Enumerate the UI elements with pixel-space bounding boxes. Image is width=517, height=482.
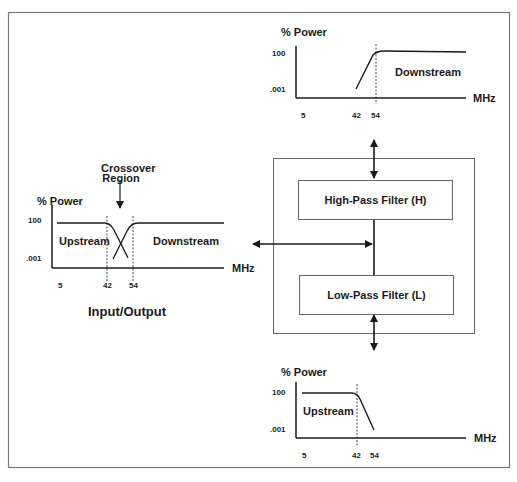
high-pass-x-tick-54: 54 bbox=[371, 112, 380, 120]
input-output-region-upstream: Upstream bbox=[59, 236, 110, 247]
high-pass-region-downstream: Downstream bbox=[395, 67, 461, 78]
high-pass-y-title: % Power bbox=[281, 27, 327, 38]
high-pass-y-tick-100: 100 bbox=[272, 50, 285, 58]
input-output-y-tick-100: 100 bbox=[28, 217, 41, 225]
low-pass-filter-box: Low-Pass Filter (L) bbox=[299, 275, 454, 315]
high-pass-y-tick-001: .001 bbox=[270, 86, 286, 94]
low-pass-y-tick-100: 100 bbox=[272, 389, 285, 397]
crossover-label-line2: Region bbox=[101, 173, 141, 184]
input-output-region-downstream: Downstream bbox=[153, 236, 219, 247]
input-output-y-title: % Power bbox=[37, 196, 83, 207]
input-output-caption: Input/Output bbox=[88, 305, 166, 318]
high-pass-x-tick-5: 5 bbox=[301, 112, 305, 120]
input-output-y-tick-001: .001 bbox=[26, 255, 42, 263]
low-pass-filter-label: Low-Pass Filter (L) bbox=[327, 289, 425, 301]
high-pass-x-tick-42: 42 bbox=[352, 112, 361, 120]
low-pass-y-title: % Power bbox=[281, 367, 327, 378]
high-pass-filter-box: High-Pass Filter (H) bbox=[298, 180, 453, 220]
high-pass-x-unit: MHz bbox=[473, 93, 496, 104]
input-output-x-tick-42: 42 bbox=[103, 282, 112, 290]
low-pass-region-upstream: Upstream bbox=[303, 406, 354, 417]
input-output-x-tick-5: 5 bbox=[58, 282, 62, 290]
diplexer-diagram: High-Pass Filter (H) Low-Pass Filter (L)… bbox=[0, 0, 517, 482]
high-pass-filter-label: High-Pass Filter (H) bbox=[324, 194, 426, 206]
low-pass-y-tick-001: .001 bbox=[270, 426, 286, 434]
low-pass-x-unit: MHz bbox=[474, 433, 497, 444]
input-output-x-tick-54: 54 bbox=[129, 282, 138, 290]
low-pass-x-tick-42: 42 bbox=[352, 452, 361, 460]
signal-arrows bbox=[253, 140, 374, 350]
input-output-x-unit: MHz bbox=[232, 263, 255, 274]
low-pass-x-tick-54: 54 bbox=[370, 452, 379, 460]
low-pass-x-tick-5: 5 bbox=[302, 452, 306, 460]
